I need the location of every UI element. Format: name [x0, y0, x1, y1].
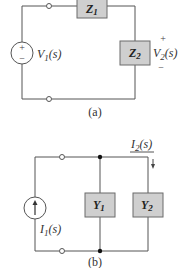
caption-b: (b) [88, 255, 102, 268]
circuit-a: + − V1(s) Z1 Z2 + V2(s) − (a) [11, 0, 178, 119]
wire-b-top-left [35, 157, 59, 197]
source-label-v1: V1(s) [37, 47, 62, 63]
terminal-a-top [47, 4, 52, 9]
circuit-diagrams: + − V1(s) Z1 Z2 + V2(s) − (a) [0, 0, 179, 268]
current-arrow-icon [151, 159, 155, 169]
junction-dot-top [98, 155, 102, 159]
current-source-icon [24, 197, 46, 219]
terminal-a-bottom [47, 97, 52, 102]
wire-a-bottom-left [22, 64, 46, 99]
voltage-source-icon: + − [11, 42, 33, 64]
output-minus-sign: − [158, 62, 164, 73]
output-label-v2: V2(s) [153, 46, 178, 62]
current-label-i2: I2(s) [130, 137, 152, 153]
circuit-b: I1(s) Y1 Y2 I2(s) (b) [24, 137, 163, 268]
terminal-b-bottom [60, 249, 65, 254]
wire-a-top-left [22, 6, 46, 42]
output-plus-sign: + [160, 33, 166, 44]
caption-a: (a) [88, 105, 101, 119]
source-label-i1: I1(s) [39, 222, 61, 238]
wire-a-top-right [107, 6, 135, 41]
wire-b-top-right [65, 157, 148, 193]
source-plus-sign: + [19, 42, 25, 53]
junction-dot-bottom [98, 249, 102, 253]
terminal-b-top [60, 155, 65, 160]
source-minus-sign: − [19, 53, 25, 64]
